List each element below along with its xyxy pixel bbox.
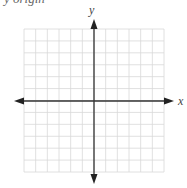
x-axis-right-arrow-icon bbox=[164, 98, 174, 105]
coordinate-plane: x y bbox=[0, 0, 187, 188]
x-axis-label: x bbox=[177, 94, 184, 108]
x-axis-left-arrow-icon bbox=[14, 98, 24, 105]
y-axis-label: y bbox=[88, 3, 95, 17]
y-axis-down-arrow-icon bbox=[91, 174, 98, 184]
y-axis-up-arrow-icon bbox=[91, 19, 98, 29]
